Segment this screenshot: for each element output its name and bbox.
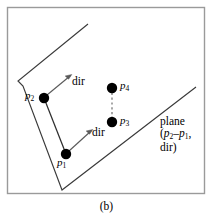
point-dot-p2 — [39, 93, 49, 103]
label-p1: p1 — [57, 157, 66, 170]
label-plane: plane (p2–p1, dir) — [160, 115, 191, 153]
figure-container: p2 p1 p4 p3 dir dir plane (p2–p1, dir) (… — [0, 0, 213, 222]
label-plane-line2: (p2–p1, — [160, 127, 191, 141]
figure-frame — [8, 8, 205, 194]
label-p3: p3 — [120, 115, 129, 128]
figure-caption: (b) — [0, 200, 213, 212]
geometry-diagram — [0, 0, 213, 222]
point-dot-p3 — [107, 117, 117, 127]
label-plane-line3: dir) — [160, 141, 191, 153]
label-dir-lower: dir — [92, 126, 105, 138]
label-p2: p2 — [25, 90, 34, 103]
label-p4: p4 — [120, 80, 129, 93]
label-plane-line1: plane — [160, 115, 191, 127]
label-dir-upper: dir — [72, 75, 85, 87]
point-dot-p4 — [107, 83, 117, 93]
